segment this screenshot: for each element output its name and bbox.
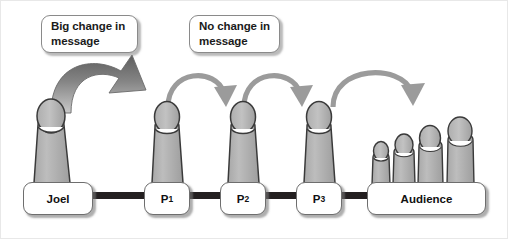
- callout-no-change: No change in message: [189, 15, 280, 53]
- arrow-p2-to-p3: [244, 76, 313, 107]
- callout-big-change: Big change in message: [41, 15, 138, 53]
- figure-group-audience: [372, 117, 474, 185]
- callout-no-change-line1: No change in: [199, 20, 270, 32]
- node-box-joel: Joel: [23, 182, 93, 215]
- node-box-p1: P1: [144, 182, 190, 215]
- figure-p3: [304, 102, 335, 184]
- node-label-p3: P: [313, 193, 321, 205]
- node-label-p1: P: [161, 193, 169, 205]
- connector-p2-p3: [262, 192, 300, 199]
- audience-figure-2: [393, 134, 415, 185]
- audience-figure-1: [372, 142, 390, 186]
- node-box-audience: Audience: [367, 182, 486, 215]
- callout-no-change-line2: message: [199, 35, 248, 47]
- connector-p1-p2: [186, 192, 224, 199]
- audience-figure-4: [447, 117, 474, 185]
- figure-joel: [34, 99, 70, 183]
- arrow-p3-to-audience: [333, 73, 425, 107]
- figure-p2: [228, 102, 259, 184]
- node-box-p3: P3: [296, 182, 342, 215]
- figure-p1: [152, 102, 183, 184]
- arrow-p1-to-p2: [168, 76, 237, 107]
- callout-big-change-line2: message: [51, 35, 100, 47]
- connector-joel-p1: [89, 192, 149, 199]
- audience-figure-3: [418, 126, 443, 186]
- diagram-canvas: Big change in message No change in messa…: [0, 0, 508, 239]
- node-label-p3-subscript: 3: [320, 194, 325, 204]
- node-label-p2-subscript: 2: [244, 194, 249, 204]
- node-label-p2: P: [237, 193, 245, 205]
- node-label-audience: Audience: [401, 193, 453, 205]
- node-box-p2: P2: [220, 182, 266, 215]
- arrow-joel-to-p1: [51, 55, 146, 113]
- node-label-p1-subscript: 1: [168, 194, 173, 204]
- node-label-joel: Joel: [46, 193, 69, 205]
- callout-big-change-line1: Big change in: [51, 20, 125, 32]
